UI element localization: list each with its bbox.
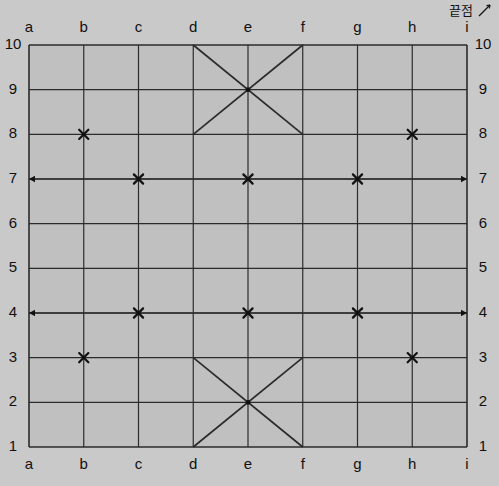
column-label-bottom: g (353, 455, 361, 472)
column-label-top: i (465, 18, 468, 35)
column-label-top: a (25, 18, 34, 35)
column-label-top: f (301, 18, 306, 35)
row-label-right: 4 (479, 303, 487, 320)
crossing-point (246, 400, 251, 405)
row-label-left: 7 (9, 169, 17, 186)
row-label-left: 3 (9, 348, 17, 365)
row-label-left: 5 (9, 258, 17, 275)
column-label-bottom: d (189, 455, 197, 472)
column-label-bottom: h (408, 455, 416, 472)
row-label-left: 9 (9, 80, 17, 97)
row-label-right: 5 (479, 258, 487, 275)
row-label-right: 2 (479, 392, 487, 409)
column-label-bottom: a (25, 455, 34, 472)
diagonal-line-icon (477, 2, 493, 18)
board-container: aabbccddeeffgghhii1010998877665544332211… (0, 0, 499, 486)
column-label-bottom: b (80, 455, 88, 472)
row-label-left: 10 (5, 35, 22, 52)
row-label-right: 6 (479, 214, 487, 231)
board-svg: aabbccddeeffgghhii1010998877665544332211 (0, 0, 499, 486)
crossing-point (246, 87, 251, 92)
column-label-bottom: i (465, 455, 468, 472)
row-label-right: 1 (479, 437, 487, 454)
row-label-left: 8 (9, 124, 17, 141)
column-label-bottom: f (301, 455, 306, 472)
row-label-left: 1 (9, 437, 17, 454)
column-label-top: h (408, 18, 416, 35)
column-label-top: b (80, 18, 88, 35)
column-label-bottom: e (244, 455, 252, 472)
row-label-right: 7 (479, 169, 487, 186)
column-label-top: g (353, 18, 361, 35)
row-label-right: 10 (475, 35, 492, 52)
row-label-right: 3 (479, 348, 487, 365)
column-label-top: d (189, 18, 197, 35)
endpoint-label: 끝점 (449, 4, 473, 17)
row-label-right: 8 (479, 124, 487, 141)
row-label-left: 2 (9, 392, 17, 409)
endpoint-annotation: 끝점 (449, 2, 493, 18)
row-label-left: 4 (9, 303, 17, 320)
column-label-top: e (244, 18, 252, 35)
column-label-bottom: c (135, 455, 143, 472)
column-label-top: c (135, 18, 143, 35)
row-label-right: 9 (479, 80, 487, 97)
row-label-left: 6 (9, 214, 17, 231)
